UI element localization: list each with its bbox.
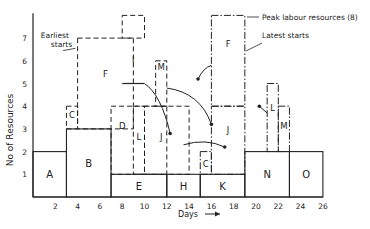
- move-arrow-head-icon: [258, 104, 262, 108]
- earliest-bar-top: [122, 15, 144, 38]
- latest-label-L: L: [270, 103, 275, 113]
- chart-labels: ABEHKNOCFIDLJMFJCLMEarlieststartsPeak la…: [41, 13, 358, 192]
- days-arrow-head-icon: [215, 212, 220, 217]
- annotation-line: starts: [51, 40, 72, 49]
- bar-label-N: N: [263, 169, 270, 180]
- x-tick-label: 18: [229, 202, 239, 211]
- x-tick-label: 12: [162, 202, 172, 211]
- x-tick-label: 24: [296, 202, 306, 211]
- resource-histogram-chart: 24681012141618202224261234567 ABEHKNOCFI…: [0, 0, 370, 229]
- bar-label-H: H: [180, 181, 188, 192]
- move-arrow-0: [145, 84, 171, 134]
- earliest-label-J: J: [159, 132, 163, 142]
- move-arrow-head-icon: [196, 77, 200, 81]
- annotation-line: Earliest: [41, 31, 69, 40]
- move-arrow-2: [184, 142, 225, 147]
- earliest-label-I: I: [132, 55, 135, 65]
- chart-marks: [33, 15, 323, 197]
- y-axis-label: No of Resources: [5, 93, 15, 166]
- x-tick-label: 20: [251, 202, 261, 211]
- annotation-peak-labour: Peak labour resources (8): [262, 13, 358, 22]
- move-arrow-3: [198, 65, 211, 79]
- latest-bar-L: [267, 84, 278, 152]
- earliest-label-M: M: [158, 62, 165, 72]
- latest-bar-J: [211, 106, 244, 174]
- move-arrow-head-icon: [223, 145, 227, 149]
- latest-label-J: J: [226, 125, 230, 135]
- x-tick-label: 26: [318, 202, 328, 211]
- earliest-label-C: C: [69, 110, 75, 120]
- y-tick-label: 6: [22, 57, 27, 66]
- latest-label-C: C: [203, 159, 209, 169]
- move-arrow-head-icon: [168, 132, 172, 136]
- latest-label-F: F: [226, 39, 231, 49]
- annotation-latest-starts: Latest starts: [262, 31, 309, 40]
- x-tick-label: 8: [120, 202, 125, 211]
- earliest-label-L: L: [137, 132, 142, 142]
- bar-label-O: O: [302, 169, 310, 180]
- x-tick-label: 22: [274, 202, 284, 211]
- bar-label-E: E: [136, 181, 142, 192]
- x-tick-label: 16: [207, 202, 217, 211]
- latest-label-M: M: [280, 121, 287, 131]
- earliest-label-F: F: [103, 69, 108, 79]
- x-tick-label: 2: [53, 202, 58, 211]
- y-tick-label: 2: [22, 148, 27, 157]
- y-tick-label: 1: [22, 170, 27, 179]
- latest-bar-F: [211, 15, 244, 106]
- latest-pointer-line: [246, 43, 262, 51]
- y-tick-label: 5: [22, 80, 27, 89]
- bar-label-K: K: [219, 181, 226, 192]
- y-tick-label: 3: [22, 125, 27, 134]
- move-arrow-head-icon: [210, 123, 214, 127]
- y-tick-label: 7: [22, 34, 27, 43]
- bar-label-A: A: [46, 169, 53, 180]
- x-tick-label: 6: [98, 202, 103, 211]
- x-tick-label: 4: [75, 202, 80, 211]
- earliest-label-D: D: [119, 121, 126, 131]
- x-axis-label: Days: [178, 210, 198, 219]
- x-tick-label: 10: [140, 202, 150, 211]
- y-tick-label: 4: [22, 102, 27, 111]
- bar-label-B: B: [85, 158, 92, 169]
- annotation-earliest-starts: Earlieststarts: [41, 31, 73, 49]
